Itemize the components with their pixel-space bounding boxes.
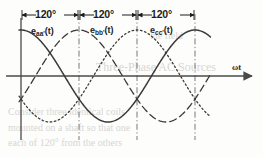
three-phase-waveform-figure: Three-Phase AC SourcesConsider three ide… xyxy=(0,0,263,157)
degree-label-1: 120° xyxy=(35,8,56,20)
waveform-plot xyxy=(0,0,263,157)
degree-label-2: 120° xyxy=(93,8,114,20)
curve-label-suffix: (t) xyxy=(105,25,114,35)
curve-label-b-phase: ebb'(t) xyxy=(90,25,114,35)
curve-label-a-phase: eaa'(t) xyxy=(31,26,54,36)
curve-label-subscript: aa' xyxy=(36,30,45,37)
curve-label-c-phase: ecc'(t) xyxy=(150,25,173,35)
curve-label-suffix: (t) xyxy=(45,26,54,36)
degree-label-3: 120° xyxy=(151,8,172,20)
omega-t-label: ωt xyxy=(232,62,241,72)
curve-label-suffix: (t) xyxy=(164,25,173,35)
curve-label-subscript: cc' xyxy=(155,29,164,36)
curve-label-subscript: bb' xyxy=(95,29,105,36)
